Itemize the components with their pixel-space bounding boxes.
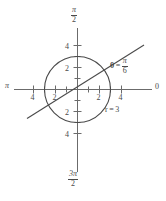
axes-group: [14, 28, 152, 172]
axis-label-pi-over-2-denominator: 2: [72, 16, 76, 25]
tick-label-down-4: 4: [65, 130, 69, 139]
axis-label-zero: 0: [155, 83, 159, 91]
tick-label-up-2: 2: [65, 64, 69, 73]
axis-label-pi: π: [5, 82, 9, 90]
annotation-r-value: 3: [115, 106, 119, 114]
annotation-r-equals-3: r = 3: [105, 106, 119, 114]
annotation-theta-equals-sign: =: [116, 62, 121, 70]
tick-label-down-2: 2: [65, 108, 69, 117]
tick-label-right-2: 2: [97, 93, 101, 102]
tick-label-right-4: 4: [119, 93, 123, 102]
annotation-r-symbol: r: [105, 106, 108, 114]
tick-label-left-2: 2: [53, 93, 57, 102]
annotation-theta-denominator: 6: [123, 67, 127, 76]
polar-graph-figure: π 2 3π 2 π 0 4 2 2 4 4 2 2 4 θ = π 6 r: [0, 0, 166, 201]
axis-label-3pi-over-2: 3π 2: [68, 170, 78, 188]
tick-label-left-4: 4: [31, 93, 35, 102]
annotation-r-equals-sign: =: [109, 106, 114, 114]
axis-label-3pi-over-2-denominator: 2: [71, 180, 75, 189]
axis-label-pi-over-2: π 2: [71, 6, 77, 24]
annotation-theta-symbol: θ: [110, 62, 114, 70]
tick-label-up-4: 4: [65, 42, 69, 51]
annotation-theta-equals-pi-over-6: θ = π 6: [110, 57, 128, 75]
polar-graph-canvas: [0, 0, 166, 201]
